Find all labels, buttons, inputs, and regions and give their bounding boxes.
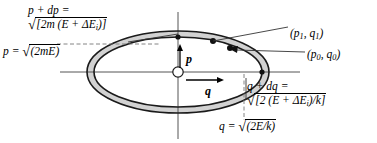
label-q: q = √(2E/k) [219, 119, 276, 134]
q-body: (2E/k) [245, 119, 276, 132]
q-plus-dq-radical: √[2 (E + ΔEi)/k] [247, 93, 326, 109]
p0-q0-post: ) [336, 48, 340, 60]
point-right-inner-marker [259, 69, 264, 74]
p-plus-dp-body-pre: [2m (E + ΔE [36, 18, 96, 30]
label-point-p0-q0: (p0, q0) [307, 48, 340, 63]
label-p-plus-dp: p + dp = √[2m (E + ΔEi)] [28, 4, 107, 33]
p-radical: √(2mE) [22, 44, 60, 59]
label-point-p1-q1: (p1, q1) [290, 27, 323, 42]
q-plus-dq-body-pre: [2 (E + ΔE [255, 94, 306, 106]
p0-q0-pre: (p [307, 48, 317, 60]
p0-q0-mid: , q [321, 48, 333, 60]
label-p: p = √(2mE) [3, 44, 60, 59]
axis-label-p: p [186, 53, 192, 66]
q-plus-dq-lhs-post: q = [272, 80, 288, 92]
q-plus-dq-lhs-pre: q + d [247, 80, 272, 92]
q-arrow-head [217, 77, 224, 83]
p-plus-dp-radical: √[2m (E + ΔEi)] [28, 17, 107, 33]
point-top-inner-marker [175, 34, 180, 39]
p1-q1-mid: , q [304, 27, 316, 39]
label-q-plus-dq: q + dq = √[2 (E + ΔEi)/k] [247, 80, 326, 109]
p-body: (2mE) [29, 44, 60, 57]
origin-marker [173, 67, 183, 77]
q-radical: √(2E/k) [238, 119, 276, 134]
q-plus-dq-body-post: )/k] [309, 94, 326, 106]
leader-p1-q1 [213, 27, 288, 41]
q-lhs: q = [219, 120, 235, 132]
p-lhs: p = [3, 45, 19, 57]
p1-q1-pre: (p [290, 27, 300, 39]
p-plus-dp-lhs: p + dp = [28, 4, 69, 16]
p-plus-dp-body-post: )] [98, 18, 106, 30]
phase-space-diagram: p + dp = √[2m (E + ΔEi)] p = √(2mE) q + … [0, 0, 377, 143]
p1-q1-post: ) [319, 27, 323, 39]
axis-label-q: q [205, 85, 211, 98]
